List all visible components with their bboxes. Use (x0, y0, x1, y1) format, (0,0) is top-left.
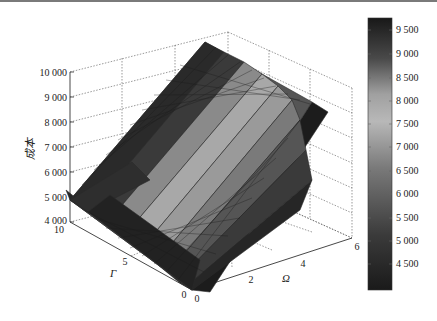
svg-text:7 000: 7 000 (45, 142, 68, 153)
svg-text:5 000: 5 000 (396, 235, 419, 246)
svg-text:4 500: 4 500 (396, 258, 419, 269)
svg-text:8 000: 8 000 (396, 95, 419, 106)
svg-text:9 000: 9 000 (45, 92, 68, 103)
surface (66, 42, 328, 292)
svg-text:6 500: 6 500 (396, 165, 419, 176)
gamma-tick-10: 10 (54, 224, 64, 235)
svg-text:5 500: 5 500 (396, 212, 419, 223)
svg-text:7 000: 7 000 (396, 141, 419, 152)
omega-tick-6: 6 (355, 241, 360, 252)
omega-tick-4: 4 (301, 258, 306, 269)
svg-text:6 000: 6 000 (45, 167, 68, 178)
svg-text:7 500: 7 500 (396, 118, 419, 129)
svg-text:9 500: 9 500 (396, 24, 419, 35)
svg-text:8 000: 8 000 (45, 117, 68, 128)
z-axis-label: 成本 (24, 136, 36, 160)
surface-plot: 10 000 9 000 8 000 7 000 6 000 5 000 4 0… (0, 0, 437, 321)
svg-text:10 000: 10 000 (40, 67, 68, 78)
svg-text:6 000: 6 000 (396, 188, 419, 199)
gamma-axis-label: Γ (109, 267, 117, 279)
omega-axis-label: Ω (282, 272, 290, 284)
omega-tick-0: 0 (195, 293, 200, 304)
gamma-tick-0: 0 (182, 289, 187, 300)
z-tick-labels: 10 000 9 000 8 000 7 000 6 000 5 000 4 0… (40, 67, 68, 226)
omega-tick-2: 2 (249, 274, 254, 285)
svg-text:8 500: 8 500 (396, 72, 419, 83)
svg-text:5 000: 5 000 (45, 192, 68, 203)
gamma-tick-5: 5 (123, 256, 128, 267)
colorbar-labels: 9 500 9 000 8 500 8 000 7 500 7 000 6 50… (396, 24, 419, 269)
colorbar: 9 500 9 000 8 500 8 000 7 500 7 000 6 50… (368, 18, 419, 290)
svg-text:9 000: 9 000 (396, 48, 419, 59)
